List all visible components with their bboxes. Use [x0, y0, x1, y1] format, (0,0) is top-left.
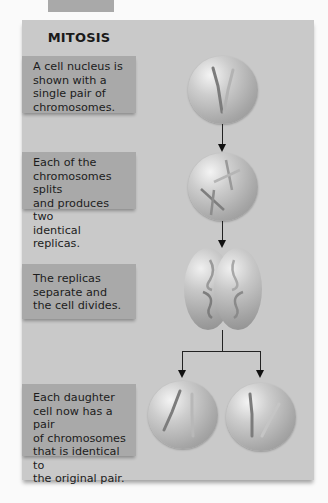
daughter-chromosomes-icon [0, 0, 328, 503]
